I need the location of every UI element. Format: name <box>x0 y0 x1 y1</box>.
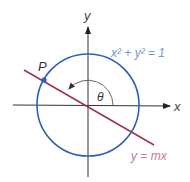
unit-circle-diagram: y x x² + y² = 1 y = mx P θ <box>0 0 190 182</box>
y-axis-label: y <box>83 8 92 23</box>
x-axis-label: x <box>173 99 181 114</box>
point-label: P <box>38 59 47 74</box>
circle-equation-label: x² + y² = 1 <box>110 46 165 60</box>
angle-arc <box>69 80 113 105</box>
angle-label: θ <box>97 90 104 104</box>
line-equation-label: y = mx <box>130 149 168 163</box>
point-p <box>41 77 46 82</box>
